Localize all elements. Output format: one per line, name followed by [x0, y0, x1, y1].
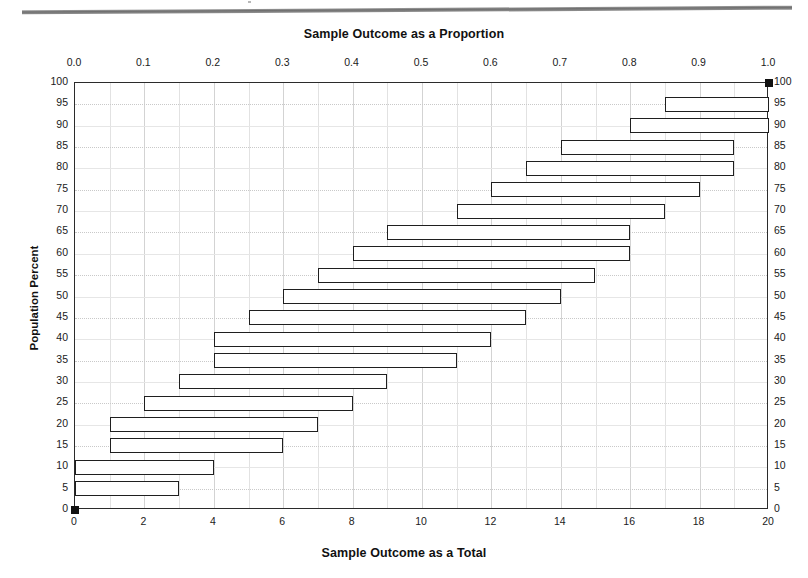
top-axis-tick: 0.4 [330, 56, 374, 68]
bottom-axis-tick: 14 [538, 515, 582, 527]
y-axis-tick-left: 25 [34, 395, 68, 407]
y-axis-tick-right: 10 [774, 459, 808, 471]
interval-bar[interactable] [491, 182, 699, 197]
y-axis-tick-left: 5 [34, 481, 68, 493]
y-axis-tick-right: 60 [774, 246, 808, 258]
y-axis-tick-right: 100 [774, 75, 808, 87]
y-axis-tick-left: 15 [34, 438, 68, 450]
scan-speck [248, 1, 251, 3]
interval-bar[interactable] [318, 268, 596, 283]
y-axis-tick-left: 30 [34, 374, 68, 386]
y-axis-tick-left: 0 [34, 502, 68, 514]
top-axis-tick: 0.2 [191, 56, 235, 68]
top-axis-tick: 0.5 [399, 56, 443, 68]
bottom-axis-tick: 2 [121, 515, 165, 527]
top-axis-tick: 0.7 [538, 56, 582, 68]
y-axis-tick-right: 65 [774, 224, 808, 236]
y-axis-tick-right: 85 [774, 139, 808, 151]
interval-bar[interactable] [214, 353, 457, 368]
top-axis-tick: 0.6 [468, 56, 512, 68]
bottom-axis-tick: 16 [607, 515, 651, 527]
bottom-axis-tick: 18 [677, 515, 721, 527]
y-axis-tick-left: 65 [34, 224, 68, 236]
y-axis-tick-left: 45 [34, 310, 68, 322]
top-axis-tick: 0.3 [260, 56, 304, 68]
interval-bar[interactable] [630, 118, 769, 133]
interval-bar[interactable] [75, 481, 179, 496]
y-axis-tick-left: 95 [34, 96, 68, 108]
y-axis-tick-left: 85 [34, 139, 68, 151]
y-axis-tick-right: 25 [774, 395, 808, 407]
y-axis-tick-right: 35 [774, 353, 808, 365]
y-axis-tick-left: 50 [34, 289, 68, 301]
bottom-axis-tick: 8 [330, 515, 374, 527]
top-axis-tick: 1.0 [746, 56, 790, 68]
y-axis-tick-right: 30 [774, 374, 808, 386]
y-axis-tick-left: 40 [34, 331, 68, 343]
top-axis-tick: 0.1 [121, 56, 165, 68]
y-axis-tick-left: 70 [34, 203, 68, 215]
interval-bar[interactable] [110, 417, 318, 432]
interval-bar[interactable] [75, 460, 214, 475]
bottom-axis-tick: 20 [746, 515, 790, 527]
y-axis-tick-right: 50 [774, 289, 808, 301]
y-axis-tick-right: 45 [774, 310, 808, 322]
interval-bar[interactable] [561, 140, 735, 155]
page-top-rule [22, 6, 792, 15]
bottom-axis-tick: 6 [260, 515, 304, 527]
plot-area [74, 82, 768, 509]
y-axis-tick-left: 60 [34, 246, 68, 258]
y-axis-tick-right: 75 [774, 182, 808, 194]
y-axis-tick-left: 20 [34, 417, 68, 429]
interval-bar[interactable] [110, 438, 284, 453]
top-axis-tick: 0.0 [52, 56, 96, 68]
y-axis-tick-left: 100 [34, 75, 68, 87]
interval-bar[interactable] [665, 97, 769, 112]
y-axis-tick-right: 15 [774, 438, 808, 450]
y-axis-tick-right: 95 [774, 96, 808, 108]
gridline-horizontal [75, 104, 767, 106]
interval-bar[interactable] [387, 225, 630, 240]
y-axis-tick-right: 5 [774, 481, 808, 493]
y-axis-tick-left: 35 [34, 353, 68, 365]
interval-endpoint-marker[interactable] [71, 506, 79, 514]
interval-endpoint-marker[interactable] [765, 79, 773, 87]
chart-page: Sample Outcome as a Proportion Sample Ou… [0, 0, 808, 578]
interval-bar[interactable] [249, 310, 527, 325]
interval-bar[interactable] [283, 289, 561, 304]
y-axis-tick-left: 10 [34, 459, 68, 471]
y-axis-tick-right: 80 [774, 160, 808, 172]
y-axis-tick-right: 70 [774, 203, 808, 215]
interval-bar[interactable] [457, 204, 665, 219]
interval-bar[interactable] [353, 246, 631, 261]
y-axis-tick-right: 40 [774, 331, 808, 343]
bottom-axis-tick: 4 [191, 515, 235, 527]
y-axis-tick-right: 20 [774, 417, 808, 429]
y-axis-tick-right: 90 [774, 118, 808, 130]
y-axis-tick-left: 75 [34, 182, 68, 194]
y-axis-tick-left: 55 [34, 267, 68, 279]
bottom-axis-tick: 0 [52, 515, 96, 527]
interval-bar[interactable] [179, 374, 387, 389]
top-axis-tick: 0.8 [607, 56, 651, 68]
interval-bar[interactable] [526, 161, 734, 176]
top-axis-title: Sample Outcome as a Proportion [0, 27, 808, 41]
y-axis-tick-right: 55 [774, 267, 808, 279]
y-axis-tick-right: 0 [774, 502, 808, 514]
interval-bar[interactable] [214, 332, 492, 347]
bottom-axis-tick: 12 [468, 515, 512, 527]
y-axis-tick-left: 90 [34, 118, 68, 130]
bottom-axis-title: Sample Outcome as a Total [0, 546, 808, 560]
y-axis-tick-left: 80 [34, 160, 68, 172]
interval-bar[interactable] [144, 396, 352, 411]
top-axis-tick: 0.9 [677, 56, 721, 68]
bottom-axis-tick: 10 [399, 515, 443, 527]
